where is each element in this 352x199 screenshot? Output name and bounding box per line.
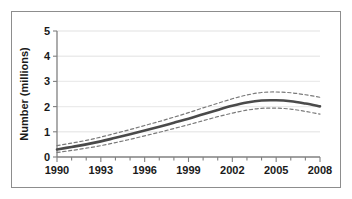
- y-tick-label: 5: [44, 25, 50, 37]
- y-tick-label: 1: [44, 126, 50, 138]
- y-axis-title-text: Number (millions): [18, 47, 30, 141]
- x-tick-label: 2008: [308, 164, 332, 176]
- y-tick-label: 2: [44, 101, 50, 113]
- y-tick-labels: 012345: [44, 25, 51, 163]
- chart-svg: 012345 1990199319961999200220052008 Numb…: [0, 0, 352, 199]
- data-series: [57, 92, 320, 152]
- x-tick-label: 1999: [176, 164, 200, 176]
- x-tick-marks: [57, 157, 320, 162]
- y-tick-label: 0: [44, 151, 50, 163]
- line-chart: 012345 1990199319961999200220052008 Numb…: [0, 0, 352, 199]
- gridlines: [57, 31, 320, 132]
- x-tick-labels: 1990199319961999200220052008: [45, 164, 332, 176]
- x-tick-label: 2002: [220, 164, 244, 176]
- x-tick-label: 2005: [264, 164, 288, 176]
- x-tick-label: 1996: [132, 164, 156, 176]
- y-axis-title: Number (millions): [18, 47, 30, 141]
- y-axis: [53, 31, 57, 157]
- y-tick-label: 4: [44, 50, 51, 62]
- x-tick-label: 1990: [45, 164, 69, 176]
- series-line-confidence: [57, 108, 320, 152]
- y-tick-label: 3: [44, 75, 50, 87]
- x-tick-label: 1993: [89, 164, 113, 176]
